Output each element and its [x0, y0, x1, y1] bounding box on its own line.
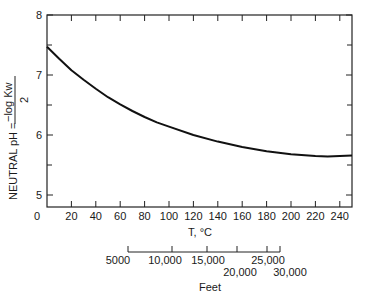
y-axis-label-denominator: 2	[18, 97, 30, 103]
feet-axis-label: Feet	[199, 281, 221, 293]
x-tick-label: 220	[306, 210, 324, 222]
neutral-ph-curve	[47, 47, 352, 157]
plot-area: 0204060801001201401601802002202405678T, …	[2, 9, 352, 293]
x-tick-label: 40	[90, 210, 102, 222]
x-axis-label: T, °C	[188, 226, 212, 238]
y-tick-label: 8	[36, 9, 42, 21]
x-tick-label: 180	[257, 210, 275, 222]
x-tick-label: 240	[331, 210, 349, 222]
y-axis-label-numerator: −log Kw	[2, 83, 14, 122]
x-tick-label: 160	[233, 210, 251, 222]
x-tick-label: 80	[138, 210, 150, 222]
x-tick-label: 100	[160, 210, 178, 222]
x-tick-label: 140	[209, 210, 227, 222]
y-tick-label: 5	[36, 189, 42, 201]
x-tick-label: 20	[65, 210, 77, 222]
x-tick-label: 0	[34, 210, 40, 222]
feet-tick-label: 5000	[106, 254, 130, 266]
plot-frame	[47, 15, 352, 207]
feet-tick-label: 20,000	[223, 266, 257, 278]
x-tick-label: 200	[282, 210, 300, 222]
feet-tick-label: 10,000	[148, 254, 182, 266]
x-tick-label: 120	[184, 210, 202, 222]
feet-tick-label: 25,000	[251, 254, 285, 266]
y-axis-label: NEUTRAL pH =	[7, 122, 19, 200]
neutral-ph-chart: 0204060801001201401601802002202405678T, …	[0, 0, 367, 306]
y-tick-label: 7	[36, 69, 42, 81]
y-tick-label: 6	[36, 129, 42, 141]
x-tick-label: 60	[114, 210, 126, 222]
feet-tick-label: 15,000	[191, 254, 225, 266]
feet-tick-label: 30,000	[273, 266, 307, 278]
